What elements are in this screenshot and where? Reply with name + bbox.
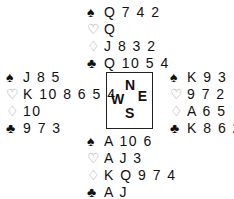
- compass-west: W: [111, 92, 124, 106]
- spade-icon: ♠: [87, 133, 104, 150]
- south-diamonds: ♢K Q 9 7 4: [87, 167, 177, 184]
- west-hearts: ♡K 10 8 6 5 4: [6, 86, 117, 103]
- east-hearts: ♡9 7 2: [170, 86, 234, 103]
- diamond-icon: ♢: [170, 103, 187, 120]
- north-spades-cards: Q 7 4 2: [104, 4, 160, 20]
- south-spades: ♠A 10 6: [87, 133, 177, 150]
- heart-icon: ♡: [170, 86, 187, 103]
- east-spades: ♠K 9 3: [170, 69, 234, 86]
- east-clubs: ♣K 8 6 2: [170, 120, 234, 137]
- south-hearts: ♡A J 3: [87, 150, 177, 167]
- north-hand: ♠Q 7 4 2 ♡Q ♢J 8 3 2 ♣Q 10 5 4: [87, 4, 170, 72]
- north-hearts: ♡Q: [87, 21, 170, 38]
- north-diamonds: ♢J 8 3 2: [87, 38, 170, 55]
- compass-north: N: [125, 78, 135, 92]
- south-clubs-cards: A J: [104, 184, 128, 199]
- diamond-icon: ♢: [6, 103, 23, 120]
- east-diamonds-cards: A 6 5: [187, 103, 226, 119]
- west-spades: ♠J 8 5: [6, 69, 117, 86]
- spade-icon: ♠: [87, 4, 104, 21]
- heart-icon: ♡: [87, 21, 104, 38]
- heart-icon: ♡: [87, 150, 104, 167]
- diamond-icon: ♢: [87, 38, 104, 55]
- east-hearts-cards: 9 7 2: [187, 86, 226, 102]
- diamond-icon: ♢: [87, 167, 104, 184]
- east-diamonds: ♢A 6 5: [170, 103, 234, 120]
- compass-east: E: [138, 89, 147, 103]
- club-icon: ♣: [87, 184, 104, 199]
- east-clubs-cards: K 8 6 2: [187, 120, 234, 136]
- south-hand: ♠A 10 6 ♡A J 3 ♢K Q 9 7 4 ♣A J: [87, 133, 177, 199]
- west-hand: ♠J 8 5 ♡K 10 8 6 5 4 ♢10 ♣9 7 3: [6, 69, 117, 137]
- south-spades-cards: A 10 6: [104, 133, 153, 149]
- west-spades-cards: J 8 5: [23, 69, 61, 85]
- spade-icon: ♠: [6, 69, 23, 86]
- spade-icon: ♠: [170, 69, 187, 86]
- compass-box: N W E S: [106, 72, 153, 129]
- south-hearts-cards: A J 3: [104, 150, 143, 166]
- north-hearts-cards: Q: [104, 21, 116, 37]
- east-spades-cards: K 9 3: [187, 69, 227, 85]
- west-clubs-cards: 9 7 3: [23, 120, 62, 136]
- club-icon: ♣: [6, 120, 23, 137]
- compass-south: S: [125, 106, 134, 120]
- north-diamonds-cards: J 8 3 2: [104, 38, 157, 54]
- heart-icon: ♡: [6, 86, 23, 103]
- west-diamonds: ♢10: [6, 103, 117, 120]
- north-spades: ♠Q 7 4 2: [87, 4, 170, 21]
- west-hearts-cards: K 10 8 6 5 4: [23, 86, 117, 102]
- east-hand: ♠K 9 3 ♡9 7 2 ♢A 6 5 ♣K 8 6 2: [170, 69, 234, 137]
- west-diamonds-cards: 10: [23, 103, 42, 119]
- south-diamonds-cards: K Q 9 7 4: [104, 167, 177, 183]
- south-clubs: ♣A J: [87, 184, 177, 199]
